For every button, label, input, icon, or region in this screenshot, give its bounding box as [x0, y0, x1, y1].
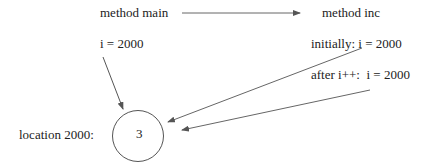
- initial-ref-arrow: [168, 48, 362, 122]
- after-ref-arrow: [182, 90, 370, 130]
- inc-after-label: after i++: i = 2000: [311, 68, 410, 82]
- method-main-label: method main: [100, 6, 168, 20]
- main-ref-arrow: [103, 57, 123, 109]
- cell-value: 3: [136, 127, 143, 141]
- diagram-canvas: method main method inc i = 2000 initiall…: [0, 0, 427, 165]
- location-label: location 2000:: [19, 128, 94, 142]
- main-var-label: i = 2000: [100, 37, 143, 51]
- method-inc-label: method inc: [322, 6, 380, 20]
- inc-initial-label: initially: i = 2000: [311, 37, 402, 51]
